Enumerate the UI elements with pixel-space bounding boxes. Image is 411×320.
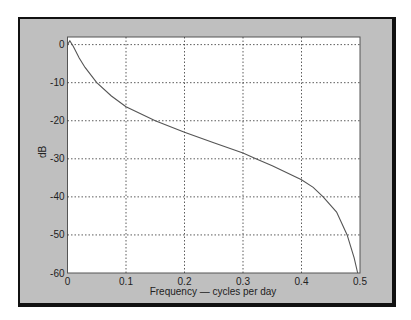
y-tick-label: 0 [59, 39, 65, 50]
y-tick-label: -60 [50, 268, 65, 279]
x-tick-label: 0 [65, 276, 71, 287]
x-axis-label: Frequency — cycles per day [150, 286, 277, 297]
y-tick-label: -20 [50, 115, 65, 126]
x-tick-label: 0.5 [353, 276, 367, 287]
y-axis-ticks: 0-10-20-30-40-50-60 [50, 39, 65, 278]
y-axis-label: dB [37, 146, 48, 159]
x-tick-label: 0.4 [295, 276, 309, 287]
x-tick-label: 0.1 [119, 276, 133, 287]
chart: 00.10.20.30.40.5 0-10-20-30-40-50-60 Fre… [0, 0, 411, 320]
y-tick-label: -30 [50, 153, 65, 164]
y-tick-label: -40 [50, 191, 65, 202]
plot-area [68, 37, 361, 273]
y-tick-label: -50 [50, 229, 65, 240]
y-tick-label: -10 [50, 77, 65, 88]
